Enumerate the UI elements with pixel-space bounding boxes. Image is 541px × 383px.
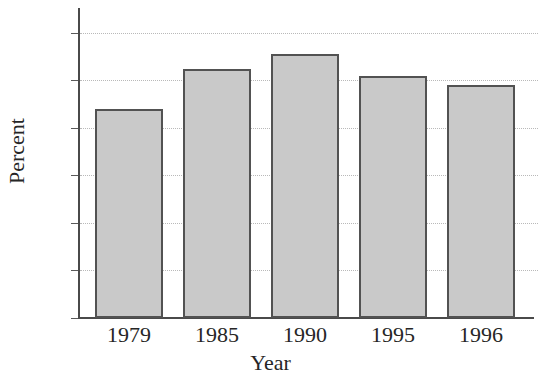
y-tick-0 bbox=[71, 318, 78, 319]
x-tick-label-1979: 1979 bbox=[85, 324, 173, 346]
y-tick-40 bbox=[71, 128, 78, 129]
y-tick-30 bbox=[71, 175, 78, 176]
x-tick-label-1995: 1995 bbox=[349, 324, 437, 346]
y-axis-line bbox=[78, 8, 80, 319]
bar-1990[interactable] bbox=[271, 54, 339, 318]
bar-1985[interactable] bbox=[183, 69, 251, 318]
bar-1979[interactable] bbox=[95, 109, 163, 318]
y-tick-10 bbox=[71, 270, 78, 271]
x-axis-title: Year bbox=[0, 352, 541, 374]
x-tick-label-1996: 1996 bbox=[437, 324, 525, 346]
bar-1995[interactable] bbox=[359, 76, 427, 318]
x-tick-label-1990: 1990 bbox=[261, 324, 349, 346]
x-tick-label-1985: 1985 bbox=[173, 324, 261, 346]
y-tick-50 bbox=[71, 80, 78, 81]
bar-1996[interactable] bbox=[447, 85, 515, 318]
gridline-60 bbox=[80, 33, 538, 34]
y-tick-60 bbox=[71, 33, 78, 34]
y-tick-20 bbox=[71, 223, 78, 224]
bar-chart: 60 50 40 30 20 10 0 1979 1985 1990 1995 … bbox=[0, 0, 541, 383]
y-axis-title: Percent bbox=[6, 71, 28, 231]
